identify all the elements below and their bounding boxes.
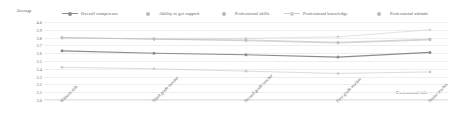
y-tick-label: 4.0 — [20, 20, 42, 25]
data-point — [429, 29, 432, 32]
y-tick-label: 3.8 — [20, 35, 42, 40]
data-point — [245, 39, 248, 42]
legend-item-label: Professional attitude — [390, 11, 429, 16]
data-point — [245, 70, 248, 73]
legend-marker-icon — [62, 9, 78, 18]
legend-item[interactable]: Professional knowledge — [284, 7, 348, 20]
legend-item-label: Professional skills — [235, 11, 269, 16]
y-tick-label: 3.2 — [20, 82, 42, 87]
y-tick-label: 3.0 — [20, 98, 42, 103]
y-tick-label: 3.9 — [20, 27, 42, 32]
data-point — [429, 38, 432, 41]
legend-item-label: Overall competence — [81, 11, 118, 16]
data-point — [61, 49, 64, 52]
legend-item[interactable]: Professional skills — [216, 7, 269, 20]
data-point — [337, 56, 340, 59]
data-point — [153, 68, 156, 71]
y-tick-label: 3.4 — [20, 66, 42, 71]
legend-marker-icon — [371, 9, 387, 18]
x-axis-category-labels: Without titleThird grade teacherSecond g… — [44, 100, 448, 137]
legend-item-label: Ability to get support — [159, 11, 199, 16]
series-4 — [61, 29, 432, 40]
y-tick-label: 3.3 — [20, 74, 42, 79]
data-point — [337, 41, 340, 44]
data-point — [61, 66, 64, 69]
legend-item-label: Professional knowledge — [303, 11, 348, 16]
data-point — [153, 52, 156, 55]
series-container — [44, 22, 448, 100]
series-2 — [61, 66, 432, 75]
y-axis-title: Average — [16, 8, 32, 13]
legend-item[interactable]: Overall competence — [62, 7, 118, 20]
data-point — [429, 51, 432, 54]
data-point — [245, 53, 248, 56]
y-axis-tick-labels: 4.03.93.83.73.63.53.43.33.23.13.0 — [16, 22, 42, 100]
plot-area — [44, 22, 448, 100]
line-chart: Overall competenceAbility to get support… — [0, 0, 463, 137]
data-point — [153, 38, 156, 41]
data-point — [337, 36, 340, 39]
legend-item[interactable]: Professional attitude — [371, 7, 429, 20]
data-point — [337, 72, 340, 75]
data-point — [429, 71, 432, 74]
chart-legend: Overall competenceAbility to get support… — [0, 7, 463, 20]
y-tick-label: 3.5 — [20, 59, 42, 64]
y-tick-label: 3.1 — [20, 90, 42, 95]
legend-marker-icon — [140, 9, 156, 18]
legend-marker-icon — [216, 9, 232, 18]
data-point — [61, 36, 64, 39]
y-tick-label: 3.6 — [20, 51, 42, 56]
legend-item[interactable]: Ability to get support — [140, 7, 199, 20]
y-tick-label: 3.7 — [20, 43, 42, 48]
series-1 — [61, 49, 432, 58]
legend-marker-icon — [284, 9, 300, 18]
